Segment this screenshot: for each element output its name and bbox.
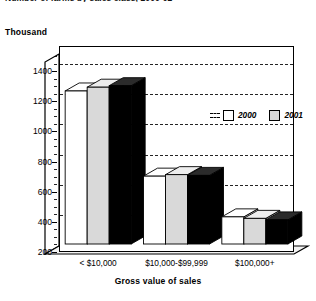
bar-front-face: [87, 87, 109, 244]
y-axis-minor-tick: [54, 214, 57, 215]
bar-front-face: [266, 220, 288, 244]
y-axis-minor-tick: [54, 199, 57, 200]
x-axis-labels: < $10,000$10,000-$99,999$100,000+: [40, 258, 316, 272]
y-axis-minor-tick: [54, 79, 57, 80]
bar-front-face: [109, 86, 131, 244]
y-axis-minor-tick: [54, 192, 57, 193]
bar-2002-2: [266, 212, 302, 244]
chart-title: Number of farms by sales class, 2000-02: [5, 0, 305, 2]
bar-2002-1: [188, 167, 224, 244]
y-axis-tick-label: 1200: [18, 96, 52, 106]
y-axis-minor-tick: [54, 237, 57, 238]
x-axis-tick-label: < $10,000: [80, 258, 117, 268]
y-axis-minor-tick: [54, 162, 57, 163]
chart-figure: Number of farms by sales class, 2000-02 …: [0, 0, 316, 301]
bar-front-face: [188, 175, 210, 244]
y-axis-minor-tick: [54, 71, 57, 72]
y-axis-tick-label: 1000: [18, 126, 52, 136]
y-axis-minor-tick: [54, 207, 57, 208]
y-axis-labels: 200400600800100012001400: [16, 46, 52, 252]
y-axis-minor-tick: [54, 184, 57, 185]
y-axis-minor-tick: [54, 116, 57, 117]
y-axis-minor-tick: [54, 177, 57, 178]
bar-2002-0: [109, 78, 145, 244]
y-axis-tick-label: 600: [18, 187, 52, 197]
x-axis-tick-label: $100,000+: [235, 258, 274, 268]
y-axis-tick-label: 800: [18, 157, 52, 167]
y-axis-minor-tick: [54, 169, 57, 170]
y-axis-tick-label: 200: [18, 247, 52, 257]
y-axis-minor-tick: [54, 244, 57, 245]
y-axis-minor-tick: [54, 139, 57, 140]
y-axis-minor-tick: [54, 64, 57, 65]
y-axis-minor-tick: [54, 56, 57, 57]
y-axis-minor-tick: [54, 124, 57, 125]
y-axis-minor-tick: [54, 252, 57, 253]
x-axis-title: Gross value of sales: [0, 276, 316, 286]
y-axis-minor-tick: [54, 109, 57, 110]
y-axis-minor-tick: [54, 86, 57, 87]
y-axis-minor-tick: [54, 94, 57, 95]
y-axis-tick-label: 1400: [18, 66, 52, 76]
y-axis-minor-tick: [54, 131, 57, 132]
y-axis-minor-tick: [54, 222, 57, 223]
y-axis-tick-label: 400: [18, 217, 52, 227]
bar-front-face: [222, 217, 244, 244]
x-axis-tick-label: $10,000-$99,999: [145, 258, 208, 268]
y-axis-minor-tick: [54, 101, 57, 102]
bar-front-face: [65, 91, 87, 244]
bar-front-face: [144, 176, 166, 244]
y-axis-minor-tick: [54, 229, 57, 230]
bar-front-face: [244, 218, 266, 244]
y-axis-unit-label: Thousand: [5, 27, 47, 37]
bar-series-layer: [59, 46, 294, 252]
bar-front-face: [166, 175, 188, 244]
y-axis-minor-tick: [54, 154, 57, 155]
y-axis-minor-tick: [54, 146, 57, 147]
